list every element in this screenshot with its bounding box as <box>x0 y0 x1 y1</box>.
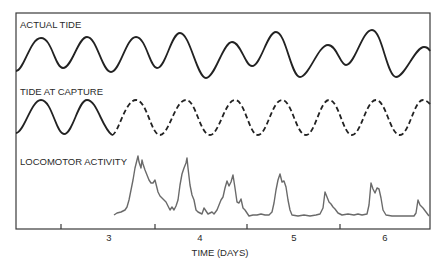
x-axis-title: TIME (DAYS) <box>192 247 249 258</box>
x-tick-label-4: 4 <box>197 232 202 243</box>
actual-tide-curve <box>16 30 430 78</box>
tide-activity-chart: ACTUAL TIDE TIDE AT CAPTURE LOCOMOTOR AC… <box>0 0 444 263</box>
x-tick-label-3: 3 <box>106 232 111 243</box>
panel-label-tide-at-capture: TIDE AT CAPTURE <box>20 86 103 97</box>
panel-label-locomotor-activity: LOCOMOTOR ACTIVITY <box>20 156 128 167</box>
panel-label-actual-tide: ACTUAL TIDE <box>20 19 81 30</box>
capture-tide-curve-dashed <box>112 100 430 135</box>
capture-tide-curve-solid <box>16 100 112 135</box>
x-tick-label-6: 6 <box>382 232 387 243</box>
locomotor-activity-trace <box>114 156 429 216</box>
x-tick-label-5: 5 <box>291 232 296 243</box>
